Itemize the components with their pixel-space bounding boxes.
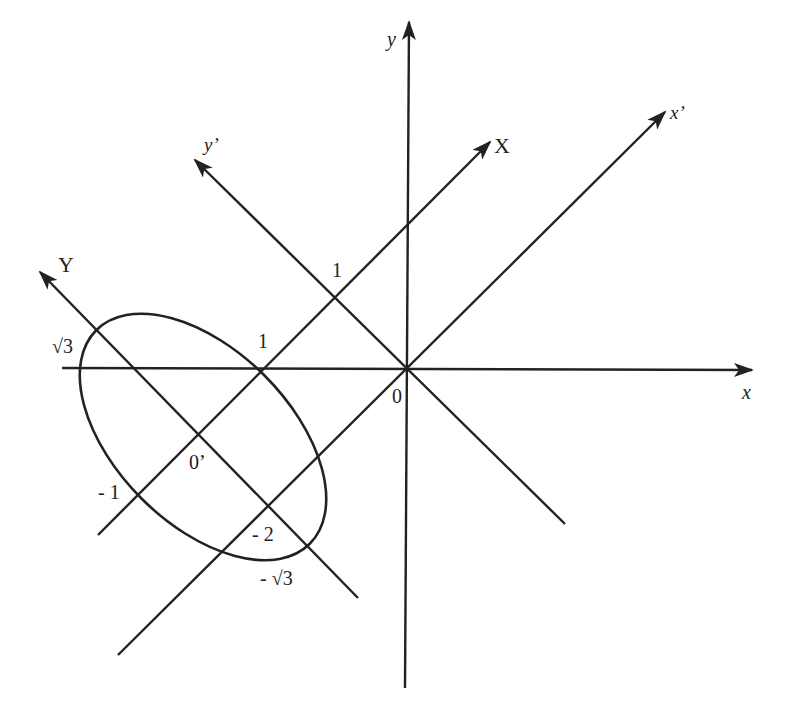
y-prime-axis-label: y’	[202, 134, 219, 155]
x-prime-axis-label: x’	[669, 102, 685, 123]
tick-label-sqrt3: √3	[52, 335, 73, 357]
tick-label-1-y-prime: 1	[332, 259, 342, 281]
x-axis-label: x	[741, 381, 751, 403]
tick-label-neg-2: - 2	[252, 523, 274, 545]
tick-label-neg-sqrt3: - √3	[260, 567, 293, 589]
diagram-canvas: y x x’ y’ X Y 0 0’ 1 1 √3 - 1 - 2 - √3	[0, 0, 807, 720]
tick-label-neg-1: - 1	[98, 481, 120, 503]
X-axis-label: X	[494, 133, 510, 158]
coordinate-diagram: y x x’ y’ X Y 0 0’ 1 1 √3 - 1 - 2 - √3	[0, 0, 807, 720]
X-axis-line	[98, 142, 490, 535]
tick-label-1-x: 1	[258, 330, 268, 352]
y-axis-label: y	[385, 28, 396, 51]
origin-prime-label: 0’	[189, 451, 206, 473]
origin-label: 0	[392, 385, 402, 407]
y-prime-axis-line	[195, 160, 565, 524]
axes-group	[40, 22, 752, 688]
x-prime-axis-line	[118, 112, 665, 655]
Y-axis-label: Y	[58, 252, 74, 277]
y-axis-line	[405, 22, 409, 688]
